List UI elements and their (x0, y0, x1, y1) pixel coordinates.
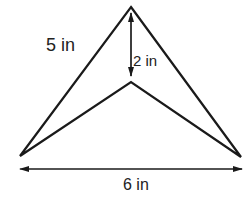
side-length-label: 5 in (46, 35, 75, 55)
height-label: 2 in (133, 52, 157, 69)
dart-diagram: 5 in 2 in 6 in (0, 0, 251, 198)
base-length-label: 6 in (123, 176, 149, 193)
